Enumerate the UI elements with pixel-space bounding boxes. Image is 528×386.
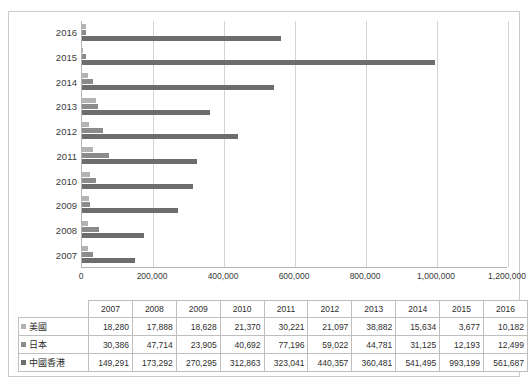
xtick-label-600,000: 600,000 — [279, 271, 310, 281]
category-label-2015: 2015 — [17, 53, 77, 63]
table-col-header-2013: 2013 — [352, 301, 396, 318]
value-axis-labels: 0200,000400,000600,000800,0001,000,0001,… — [81, 12, 507, 302]
category-label-2012: 2012 — [17, 127, 77, 137]
table-cell-日本-2012: 59,022 — [308, 336, 352, 354]
category-label-2008: 2008 — [17, 226, 77, 236]
legend-item-日本: 日本 — [19, 336, 89, 354]
category-label-2011: 2011 — [17, 152, 77, 162]
table-cell-中國香港-2011: 323,041 — [264, 354, 308, 372]
xtick-label-1,200,000: 1,200,000 — [488, 271, 526, 281]
table-cell-美國-2008: 17,888 — [132, 318, 176, 336]
table-cell-美國-2013: 38,882 — [352, 318, 396, 336]
table-row: 日本30,38647,71423,90540,69277,19659,02244… — [19, 336, 528, 354]
legend-item-中國香港: 中國香港 — [19, 354, 89, 372]
table-col-header-2011: 2011 — [264, 301, 308, 318]
xtick-label-400,000: 400,000 — [208, 271, 239, 281]
chart-page: 2016201520142013201220112010200920082007… — [0, 0, 528, 386]
legend-label: 美國 — [29, 322, 47, 332]
gridline — [508, 21, 509, 267]
table-cell-中國香港-2008: 173,292 — [132, 354, 176, 372]
table-col-header-2014: 2014 — [396, 301, 440, 318]
table-cell-美國-2012: 21,097 — [308, 318, 352, 336]
table-cell-日本-2016: 12,499 — [484, 336, 528, 354]
table-cell-日本-2014: 31,125 — [396, 336, 440, 354]
table-col-header-2008: 2008 — [132, 301, 176, 318]
category-label-2010: 2010 — [17, 177, 77, 187]
category-label-2013: 2013 — [17, 102, 77, 112]
table-col-header-2012: 2012 — [308, 301, 352, 318]
table-cell-美國-2007: 18,280 — [89, 318, 133, 336]
data-table: 2007200820092010201120122013201420152016… — [18, 300, 528, 372]
table-cell-日本-2007: 30,386 — [89, 336, 133, 354]
table-header-row: 2007200820092010201120122013201420152016 — [19, 301, 528, 318]
table-cell-中國香港-2009: 270,295 — [176, 354, 220, 372]
category-label-2016: 2016 — [17, 28, 77, 38]
legend-item-美國: 美國 — [19, 318, 89, 336]
legend-label: 中國香港 — [29, 358, 65, 368]
table-col-header-2010: 2010 — [220, 301, 264, 318]
table-row: 中國香港149,291173,292270,295312,863323,0414… — [19, 354, 528, 372]
table-cell-中國香港-2014: 541,495 — [396, 354, 440, 372]
table-cell-中國香港-2010: 312,863 — [220, 354, 264, 372]
legend-swatch-icon — [21, 360, 26, 365]
category-axis-labels: 2016201520142013201220112010200920082007 — [13, 21, 77, 268]
table-col-header-2009: 2009 — [176, 301, 220, 318]
table-cell-日本-2008: 47,714 — [132, 336, 176, 354]
legend-swatch-icon — [21, 324, 26, 329]
table-cell-日本-2013: 44,781 — [352, 336, 396, 354]
table-body: 美國18,28017,88818,62821,37030,22121,09738… — [19, 318, 528, 372]
cut-off-header-strip — [0, 0, 528, 9]
chart-frame: 2016201520142013201220112010200920082007… — [8, 11, 520, 377]
xtick-label-1,000,000: 1,000,000 — [417, 271, 455, 281]
xtick-label-800,000: 800,000 — [350, 271, 381, 281]
table-col-header-2007: 2007 — [89, 301, 133, 318]
table-corner-cell — [19, 301, 89, 318]
category-label-2009: 2009 — [17, 201, 77, 211]
xtick-label-200,000: 200,000 — [137, 271, 168, 281]
table-col-header-2015: 2015 — [440, 301, 484, 318]
table-cell-中國香港-2013: 360,481 — [352, 354, 396, 372]
table-cell-日本-2015: 12,193 — [440, 336, 484, 354]
table-cell-中國香港-2012: 440,357 — [308, 354, 352, 372]
table-cell-美國-2010: 21,370 — [220, 318, 264, 336]
table-cell-美國-2011: 30,221 — [264, 318, 308, 336]
table-cell-日本-2009: 23,905 — [176, 336, 220, 354]
table-cell-美國-2009: 18,628 — [176, 318, 220, 336]
legend-swatch-icon — [21, 342, 26, 347]
table-cell-美國-2015: 3,677 — [440, 318, 484, 336]
table-cell-日本-2010: 40,692 — [220, 336, 264, 354]
table-cell-美國-2014: 15,634 — [396, 318, 440, 336]
legend-label: 日本 — [29, 340, 47, 350]
data-table-container: 2007200820092010201120122013201420152016… — [18, 300, 528, 372]
category-label-2007: 2007 — [17, 251, 77, 261]
xtick-label-0: 0 — [79, 271, 84, 281]
category-label-2014: 2014 — [17, 78, 77, 88]
table-row: 美國18,28017,88818,62821,37030,22121,09738… — [19, 318, 528, 336]
table-cell-中國香港-2015: 993,199 — [440, 354, 484, 372]
table-cell-美國-2016: 10,182 — [484, 318, 528, 336]
table-col-header-2016: 2016 — [484, 301, 528, 318]
table-cell-中國香港-2007: 149,291 — [89, 354, 133, 372]
table-cell-中國香港-2016: 561,687 — [484, 354, 528, 372]
table-cell-日本-2011: 77,196 — [264, 336, 308, 354]
